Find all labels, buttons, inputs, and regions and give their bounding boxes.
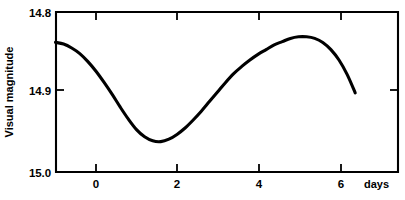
x-tick-label-0: 0 — [93, 178, 99, 190]
axis-frame — [56, 12, 398, 172]
x-tick-label-6: 6 — [338, 178, 344, 190]
y-tick-label-14-9: 14.9 — [29, 85, 51, 97]
y-tick-label-15-0: 15.0 — [29, 167, 51, 179]
y-tick-label-14-8: 14.8 — [29, 7, 52, 19]
x-tick-label-2: 2 — [174, 178, 180, 190]
y-axis-ticks — [56, 12, 64, 172]
x-axis-ticks-top — [96, 12, 341, 20]
y-axis-title: Visual magnitude — [3, 47, 15, 138]
light-curve-line — [56, 37, 356, 142]
chart-canvas: 14.8 14.9 15.0 0 2 4 6 days Visual magni… — [0, 0, 405, 200]
x-axis-ticks — [96, 164, 341, 172]
light-curve-figure: 14.8 14.9 15.0 0 2 4 6 days Visual magni… — [0, 0, 405, 200]
x-axis-unit-label: days — [364, 178, 389, 190]
x-tick-label-4: 4 — [256, 178, 263, 190]
